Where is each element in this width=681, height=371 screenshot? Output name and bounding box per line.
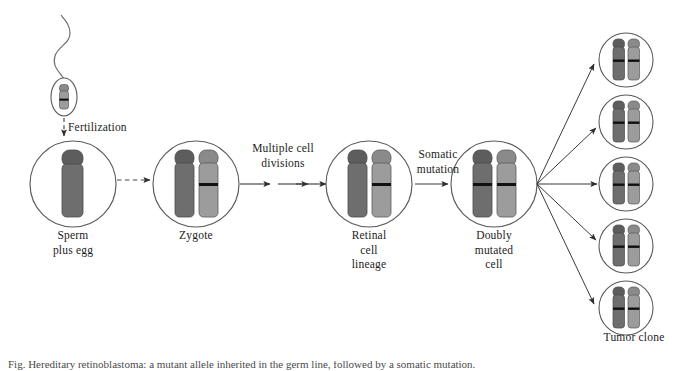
- stage-label-retinal-cell-lineage: Retinal cell lineage: [319, 228, 419, 272]
- mutation-band: [497, 183, 516, 186]
- diagram-canvas: [0, 0, 681, 371]
- chromosome-dark: [175, 150, 194, 217]
- chromosome-light-mutated: [497, 150, 516, 217]
- mutation-band: [199, 183, 218, 186]
- sperm-chromosome: [60, 85, 69, 110]
- tumor-clone-label: Tumor clone: [586, 330, 681, 345]
- stage-label-sperm-plus-egg: Sperm plus egg: [23, 228, 123, 257]
- chromosome-dark-mutated: [473, 150, 492, 217]
- chromosome-light-mutated: [199, 150, 218, 217]
- tumor-clone-cell: [599, 95, 653, 149]
- stage-sperm-plus-egg: [30, 141, 116, 227]
- figure-caption: Fig. Hereditary retinoblastoma: a mutant…: [0, 361, 681, 371]
- stage-zygote: [153, 141, 239, 227]
- tumor-clone-cell: [599, 281, 653, 335]
- tumor-clone-cell: [599, 33, 653, 87]
- retinoblastoma-diagram: Fertilization Sperm plus egg Zygote Mult…: [0, 0, 681, 371]
- figure-caption-text: Fig. Hereditary retinoblastoma: a mutant…: [8, 361, 475, 370]
- chromosome-dark: [348, 150, 367, 217]
- chromosome-light-mutated: [372, 150, 391, 217]
- mutation-band: [372, 183, 391, 186]
- tumor-clone-cell: [599, 157, 653, 211]
- tumor-clone-cell: [599, 219, 653, 273]
- step-label-multiple-cell-divisions: Multiple cell divisions: [236, 141, 330, 170]
- stage-label-zygote: Zygote: [146, 228, 246, 243]
- stage-retinal-cell-lineage: [326, 141, 412, 227]
- mutation-band: [473, 183, 492, 186]
- step-label-fertilization: Fertilization: [68, 120, 127, 135]
- stage-label-doubly-mutated-cell: Doubly mutated cell: [444, 228, 544, 272]
- sperm-tail-icon: [54, 15, 70, 79]
- step-label-somatic-mutation: Somatic mutation: [404, 147, 472, 176]
- tumor-clone-fan-arrows: [537, 64, 597, 304]
- sperm-head: [51, 78, 77, 116]
- chromosome-dark: [62, 150, 83, 217]
